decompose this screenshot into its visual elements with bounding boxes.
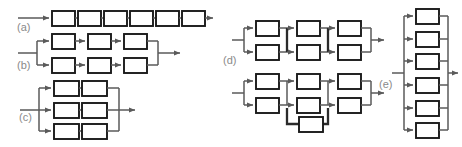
diagram-canvas: (a) (b) — [0, 0, 462, 147]
panel-d-upper-block-r2c3 — [338, 45, 361, 60]
panel-b-block-r1c2 — [88, 34, 111, 49]
diagram-svg: (a) (b) — [0, 0, 462, 147]
panel-d-upper-block-r1c2 — [297, 21, 320, 36]
panel-c-label: (c) — [19, 111, 32, 123]
panel-d-lower-block-r1c3 — [338, 74, 361, 89]
panel-e-block-2 — [416, 32, 439, 47]
panel-a-block-6 — [182, 11, 205, 26]
panel-e-block-6 — [416, 123, 439, 138]
panel-d-lower-block-r2c1 — [256, 98, 279, 113]
panel-e-block-3 — [416, 54, 439, 69]
panel-d-upper-block-r1c3 — [338, 21, 361, 36]
panel-d-lower-block-r1c1 — [256, 74, 279, 89]
panel-b: (b) — [17, 34, 180, 73]
panel-c-block-r3c1 — [54, 124, 79, 139]
panel-c-block-r3c2 — [82, 124, 107, 139]
panel-c: (c) — [19, 81, 135, 139]
panel-b-block-r2c1 — [52, 58, 75, 73]
panel-d-lower-block-r2c2 — [297, 98, 320, 113]
panel-a-label: (a) — [17, 21, 30, 33]
panel-d-lower-block-r2c3 — [338, 98, 361, 113]
panel-a: (a) — [17, 11, 213, 33]
panel-d-lower-block-r1c2 — [297, 74, 320, 89]
panel-b-block-r2c2 — [88, 58, 111, 73]
panel-b-block-r1c1 — [52, 34, 75, 49]
panel-e: (e) — [379, 9, 458, 138]
panel-d-upper — [232, 21, 384, 60]
panel-d-upper-block-r1c1 — [256, 21, 279, 36]
panel-b-block-r2c3 — [124, 58, 147, 73]
panel-d-bridge-block — [299, 117, 323, 132]
panel-a-block-4 — [130, 11, 153, 26]
panel-a-block-5 — [156, 11, 179, 26]
panel-e-block-5 — [416, 101, 439, 116]
panel-a-block-3 — [104, 11, 127, 26]
panel-d-upper-block-r2c2 — [297, 45, 320, 60]
panel-e-block-4 — [416, 78, 439, 93]
panel-c-block-r1c1 — [54, 81, 79, 96]
panel-c-block-r2c2 — [82, 103, 107, 118]
panel-e-label: (e) — [379, 78, 392, 90]
panel-c-block-r2c1 — [54, 103, 79, 118]
panel-a-block-1 — [52, 11, 75, 26]
panel-b-label: (b) — [17, 59, 30, 71]
panel-d-lower: (d) — [223, 54, 384, 132]
panel-d-label: (d) — [223, 54, 236, 66]
panel-c-block-r1c2 — [82, 81, 107, 96]
panel-a-block-2 — [78, 11, 101, 26]
panel-d-upper-block-r2c1 — [256, 45, 279, 60]
panel-e-block-1 — [416, 9, 439, 24]
panel-b-block-r1c3 — [124, 34, 147, 49]
